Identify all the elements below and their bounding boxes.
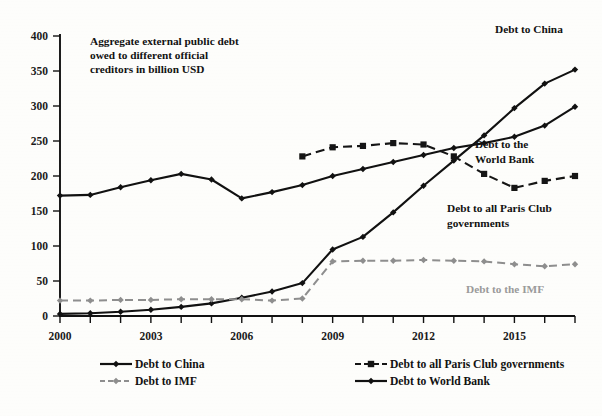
data-point-marker xyxy=(117,184,123,190)
series-group xyxy=(57,66,578,317)
x-tick-label: 2009 xyxy=(321,330,344,342)
legend-label: Debt to World Bank xyxy=(390,375,491,388)
data-point-marker xyxy=(208,296,214,302)
x-tick-group: 200020032006200920122015 xyxy=(49,316,576,342)
data-point-marker xyxy=(330,144,336,150)
data-point-marker xyxy=(390,159,396,165)
data-point-marker xyxy=(572,173,578,179)
legend-marker-swatch xyxy=(113,378,120,385)
annotation-debt-to-paris-club: Debt to all Paris Club governments xyxy=(447,202,552,229)
data-point-marker xyxy=(511,261,517,267)
annotation-label-world-bank-line-2: World Bank xyxy=(475,153,535,165)
data-point-marker xyxy=(572,261,578,267)
x-tick-label: 2006 xyxy=(230,330,253,342)
data-point-marker xyxy=(178,304,184,310)
data-point-marker xyxy=(420,152,426,158)
y-tick-label: 50 xyxy=(37,275,49,287)
data-point-marker xyxy=(360,258,366,264)
series-debt-to-imf xyxy=(57,257,578,304)
data-point-marker xyxy=(117,297,123,303)
data-point-marker xyxy=(299,182,305,188)
legend-label: Debt to China xyxy=(135,358,205,371)
data-point-marker xyxy=(451,258,457,264)
legend-marker-swatch xyxy=(368,378,375,385)
series-line xyxy=(60,70,575,314)
data-point-marker xyxy=(420,257,426,263)
data-point-marker xyxy=(360,166,366,172)
data-point-marker xyxy=(481,171,487,177)
annotation-debt-to-world-bank: Debt to the World Bank xyxy=(475,138,535,165)
legend-item-debt-to-imf[interactable]: Debt to IMF xyxy=(100,375,197,388)
series-line xyxy=(302,143,575,188)
data-point-marker xyxy=(148,297,154,303)
data-point-marker xyxy=(299,295,305,301)
legend-item-debt-to-all-paris-club-governments[interactable]: Debt to all Paris Club governments xyxy=(355,358,565,371)
legend-item-debt-to-china[interactable]: Debt to China xyxy=(100,358,205,371)
data-point-marker xyxy=(360,143,366,149)
y-tick-label: 100 xyxy=(31,240,49,252)
data-point-marker xyxy=(390,258,396,264)
data-point-marker xyxy=(148,177,154,183)
y-axis: 050100150200250300350400 xyxy=(31,30,60,322)
data-point-marker xyxy=(57,297,63,303)
chart-title: Aggregate external public debt owed to d… xyxy=(90,35,239,75)
chart-title-line-1: Aggregate external public debt xyxy=(90,35,239,47)
legend-marker-swatch xyxy=(368,361,374,367)
x-tick-label: 2000 xyxy=(49,330,72,342)
series-debt-to-all-paris-club-governments xyxy=(299,140,578,191)
y-tick-group: 050100150200250300350400 xyxy=(31,30,60,322)
data-point-marker xyxy=(542,178,548,184)
data-point-marker xyxy=(87,297,93,303)
chart-title-line-2: owed to different official xyxy=(90,49,208,61)
x-tick-label: 2015 xyxy=(503,330,526,342)
data-point-marker xyxy=(420,141,426,147)
data-point-marker xyxy=(87,192,93,198)
x-tick-label: 2003 xyxy=(139,330,162,342)
data-point-marker xyxy=(451,153,457,159)
y-tick-label: 150 xyxy=(31,205,49,217)
data-point-marker xyxy=(269,189,275,195)
annotation-label-imf: Debt to the IMF xyxy=(466,283,544,295)
data-point-marker xyxy=(451,145,457,151)
chart-figure: 050100150200250300350400 200020032006200… xyxy=(0,0,602,416)
y-tick-label: 400 xyxy=(31,30,49,42)
chart-title-line-3: creditors in billion USD xyxy=(90,63,204,75)
legend-label: Debt to IMF xyxy=(135,375,197,388)
y-tick-label: 300 xyxy=(31,100,49,112)
data-point-marker xyxy=(481,258,487,264)
annotation-label-china: Debt to China xyxy=(495,23,563,35)
legend-item-debt-to-world-bank[interactable]: Debt to World Bank xyxy=(355,375,491,388)
legend-marker-swatch xyxy=(113,361,120,368)
annotation-label-world-bank-line-1: Debt to the xyxy=(475,138,528,150)
y-tick-label: 0 xyxy=(42,310,48,322)
data-point-marker xyxy=(117,309,123,315)
data-point-marker xyxy=(511,185,517,191)
annotation-label-paris-club-line-1: Debt to all Paris Club xyxy=(447,202,552,214)
data-point-marker xyxy=(572,66,578,72)
data-point-marker xyxy=(178,171,184,177)
annotation-label-paris-club-line-2: governments xyxy=(447,217,510,229)
chart-canvas: 050100150200250300350400 200020032006200… xyxy=(0,0,602,416)
legend-label: Debt to all Paris Club governments xyxy=(390,358,565,371)
chart-legend: Debt to ChinaDebt to all Paris Club gove… xyxy=(100,358,565,388)
data-point-marker xyxy=(390,140,396,146)
x-axis: 200020032006200920122015 xyxy=(49,316,576,342)
data-point-marker xyxy=(269,297,275,303)
data-point-marker xyxy=(299,153,305,159)
x-tick-label: 2012 xyxy=(412,330,435,342)
data-point-marker xyxy=(57,192,63,198)
data-point-marker xyxy=(178,296,184,302)
annotation-debt-to-imf: Debt to the IMF xyxy=(466,283,544,295)
data-point-marker xyxy=(542,263,548,269)
data-point-marker xyxy=(329,173,335,179)
y-tick-label: 350 xyxy=(31,65,49,77)
y-tick-label: 250 xyxy=(31,135,49,147)
annotation-debt-to-china: Debt to China xyxy=(495,23,563,35)
data-point-marker xyxy=(148,307,154,313)
data-point-marker xyxy=(269,288,275,294)
y-tick-label: 200 xyxy=(31,170,49,182)
